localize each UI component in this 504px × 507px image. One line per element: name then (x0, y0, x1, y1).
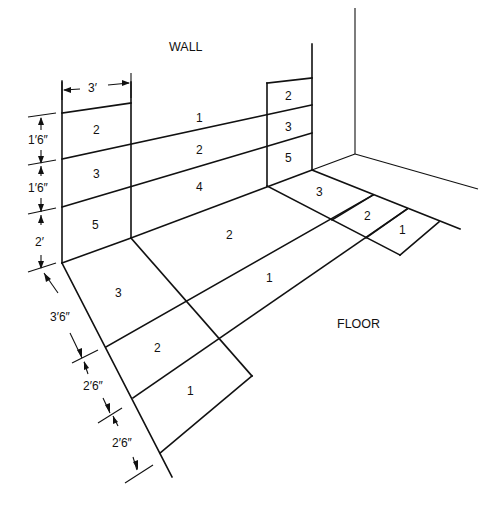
svg-text:3′: 3′ (88, 81, 98, 95)
right-wall-floor-line (355, 154, 478, 189)
back-floor-line (312, 154, 355, 170)
right-floor-cell: 2 (364, 209, 371, 223)
right-wall-cell: 2 (285, 89, 292, 103)
floor-strip-cell: 1 (266, 271, 273, 285)
left-floor-cell: 2 (154, 341, 161, 355)
wall-strip-cell: 1 (196, 111, 203, 125)
right-floor-cell: 1 (399, 223, 406, 237)
left-wall-cell: 2 (93, 123, 100, 137)
right-wall-cell: 3 (285, 120, 292, 134)
svg-text:2′: 2′ (35, 235, 45, 249)
right-wall-cell: 5 (285, 151, 292, 165)
wall-label: WALL (169, 40, 203, 54)
left-wall-cell: 5 (92, 218, 99, 232)
dimension-floor-lengths: 3′6″ 2′6″ 2′6″ (44, 273, 153, 483)
right-floor-cell: 3 (316, 185, 323, 199)
dimension-wall-heights: 1′6″ 1′6″ 2′ (28, 113, 56, 272)
dimension-width: 3′ (62, 73, 131, 100)
floor-strip-cell: 2 (226, 228, 233, 242)
svg-text:2′6″: 2′6″ (112, 436, 133, 450)
svg-text:1′6″: 1′6″ (28, 133, 49, 147)
wall-strip-cell: 2 (196, 143, 203, 157)
svg-text:2′6″: 2′6″ (83, 379, 104, 393)
svg-text:1′6″: 1′6″ (28, 181, 49, 195)
left-floor-cell: 3 (115, 286, 122, 300)
wall-strip-cell: 4 (196, 180, 203, 194)
svg-text:3′6″: 3′6″ (50, 310, 71, 324)
left-floor-cell: 1 (187, 384, 194, 398)
left-wall-cell: 3 (93, 167, 100, 181)
floor-label: FLOOR (337, 317, 380, 331)
wall-floor-layout-diagram: 3′ 1′6″ 1′6″ 2′ (0, 0, 504, 507)
floor-lines (62, 170, 460, 477)
